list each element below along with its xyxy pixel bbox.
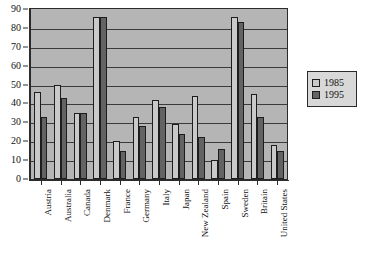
bar-group <box>129 9 149 179</box>
y-tick-mark <box>23 27 28 28</box>
bar <box>54 85 61 179</box>
x-tick-label: Sweden <box>241 189 250 218</box>
light-gray-swatch-icon <box>312 79 320 87</box>
y-tick-label: 0 <box>16 174 21 184</box>
x-tick-label: France <box>123 189 132 214</box>
x-tick-mark <box>61 181 62 185</box>
bar-group <box>169 9 189 179</box>
y-tick-mark <box>23 9 28 10</box>
bar <box>133 117 140 179</box>
bar <box>218 149 225 179</box>
x-tick-label: United States <box>280 189 289 237</box>
y-tick-label: 80 <box>11 23 21 33</box>
y-tick-label: 60 <box>11 61 21 71</box>
y-tick-mark <box>23 179 28 180</box>
x-tick-label: Austria <box>44 189 53 216</box>
x-tick-mark <box>257 181 258 185</box>
bar-chart: 0102030405060708090 1985 1995 AustriaAus… <box>0 0 365 258</box>
x-tick-mark <box>238 181 239 185</box>
x-tick-label: Spain <box>221 189 230 210</box>
y-tick-mark <box>23 122 28 123</box>
y-tick-label: 50 <box>11 80 21 90</box>
bar <box>179 134 186 179</box>
bar-group <box>208 9 228 179</box>
bar-group <box>110 9 130 179</box>
bar <box>93 17 100 179</box>
y-axis: 0102030405060708090 <box>0 8 28 180</box>
bar <box>211 160 218 179</box>
y-tick-mark <box>23 84 28 85</box>
x-tick-mark <box>120 181 121 185</box>
y-tick-label: 10 <box>11 155 21 165</box>
x-tick-mark <box>159 181 160 185</box>
bar-group <box>31 9 51 179</box>
bar <box>41 117 48 179</box>
legend: 1985 1995 <box>307 71 357 107</box>
y-tick-label: 40 <box>11 98 21 108</box>
x-tick-label: Australia <box>64 189 73 222</box>
bar-group <box>189 9 209 179</box>
y-tick-mark <box>23 46 28 47</box>
bar <box>120 151 127 179</box>
bar <box>80 113 87 179</box>
x-tick-mark <box>198 181 199 185</box>
bars-layer <box>31 9 287 179</box>
x-tick-mark <box>179 181 180 185</box>
bar-group <box>228 9 248 179</box>
x-tick-mark <box>139 181 140 185</box>
bar <box>172 124 179 179</box>
bar-group <box>248 9 268 179</box>
bar <box>61 98 68 179</box>
dark-gray-swatch-icon <box>312 91 320 99</box>
bar <box>74 113 81 179</box>
x-tick-label: New Zealand <box>201 189 210 237</box>
bar <box>113 141 120 179</box>
bar-group <box>267 9 287 179</box>
legend-item: 1985 <box>312 78 352 88</box>
x-tick-label: Canada <box>83 189 92 216</box>
x-tick-label: Japan <box>182 189 191 210</box>
y-tick-mark <box>23 103 28 104</box>
bar <box>238 22 245 179</box>
x-tick-label: Britain <box>260 189 269 214</box>
y-tick-mark <box>23 65 28 66</box>
bar <box>198 137 205 179</box>
y-tick-mark <box>23 141 28 142</box>
legend-item: 1995 <box>312 90 352 100</box>
bar-group <box>70 9 90 179</box>
bar-group <box>51 9 71 179</box>
legend-item-label: 1985 <box>324 78 344 88</box>
bar <box>192 96 199 179</box>
y-tick-label: 70 <box>11 42 21 52</box>
y-tick-label: 90 <box>11 4 21 14</box>
bar-group <box>149 9 169 179</box>
bar <box>257 117 264 179</box>
bar-group <box>90 9 110 179</box>
x-tick-label: Germany <box>142 189 151 223</box>
bar <box>100 17 107 179</box>
y-tick-label: 20 <box>11 136 21 146</box>
x-tick-label: Italy <box>162 189 171 206</box>
bar <box>152 100 159 179</box>
x-tick-mark <box>80 181 81 185</box>
y-tick-label: 30 <box>11 117 21 127</box>
bar <box>271 145 278 179</box>
x-tick-mark <box>41 181 42 185</box>
x-tick-mark <box>218 181 219 185</box>
x-tick-label: Denmark <box>103 189 112 223</box>
x-tick-mark <box>277 181 278 185</box>
bar <box>34 92 41 179</box>
legend-item-label: 1995 <box>324 90 344 100</box>
bar <box>251 94 258 179</box>
x-tick-mark <box>100 181 101 185</box>
bar <box>159 107 166 179</box>
bar <box>277 151 284 179</box>
bar <box>231 17 238 179</box>
bar <box>139 126 146 179</box>
y-tick-mark <box>23 160 28 161</box>
